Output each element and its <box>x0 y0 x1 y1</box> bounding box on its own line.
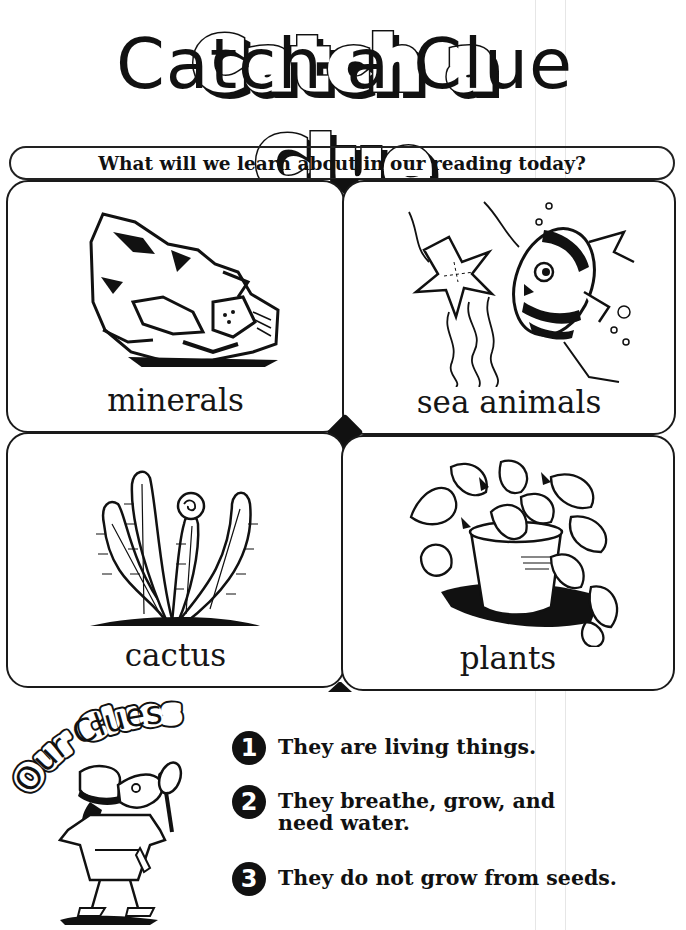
clue-text: They are living things. <box>278 731 536 758</box>
worksheet-title: Catch a Clue Catch a Clue Catch a Clue C… <box>112 14 577 114</box>
potted-plant-icon <box>401 457 631 647</box>
clue-text: They breathe, grow, and need water. <box>278 785 578 834</box>
question-banner: What will we learn about in our reading … <box>9 146 675 180</box>
clue-item-1: 1 They are living things. <box>232 731 536 765</box>
number-badge-icon: 1 <box>232 731 266 765</box>
clue-item-2: 2 They breathe, grow, and need water. <box>232 785 578 834</box>
rock-icon <box>73 202 288 367</box>
number-badge-icon: 3 <box>232 862 266 896</box>
card-plants[interactable]: plants <box>341 435 675 691</box>
card-minerals[interactable]: minerals <box>6 180 345 433</box>
card-label: plants <box>343 640 673 676</box>
card-label: sea animals <box>344 384 674 420</box>
question-text: What will we learn about in our reading … <box>98 153 586 174</box>
detective-dog-icon <box>50 760 200 925</box>
cactus-icon <box>80 464 270 629</box>
card-sea-animals[interactable]: sea animals <box>342 180 676 435</box>
title-text: Catch a Clue <box>112 14 577 114</box>
sea-animals-icon <box>374 192 664 387</box>
card-label: minerals <box>8 382 343 418</box>
clue-item-3: 3 They do not grow from seeds. <box>232 862 617 896</box>
clue-text: They do not grow from seeds. <box>278 862 617 889</box>
number-badge-icon: 2 <box>232 785 266 819</box>
card-label: cactus <box>8 637 343 673</box>
card-cactus[interactable]: cactus <box>6 432 345 688</box>
